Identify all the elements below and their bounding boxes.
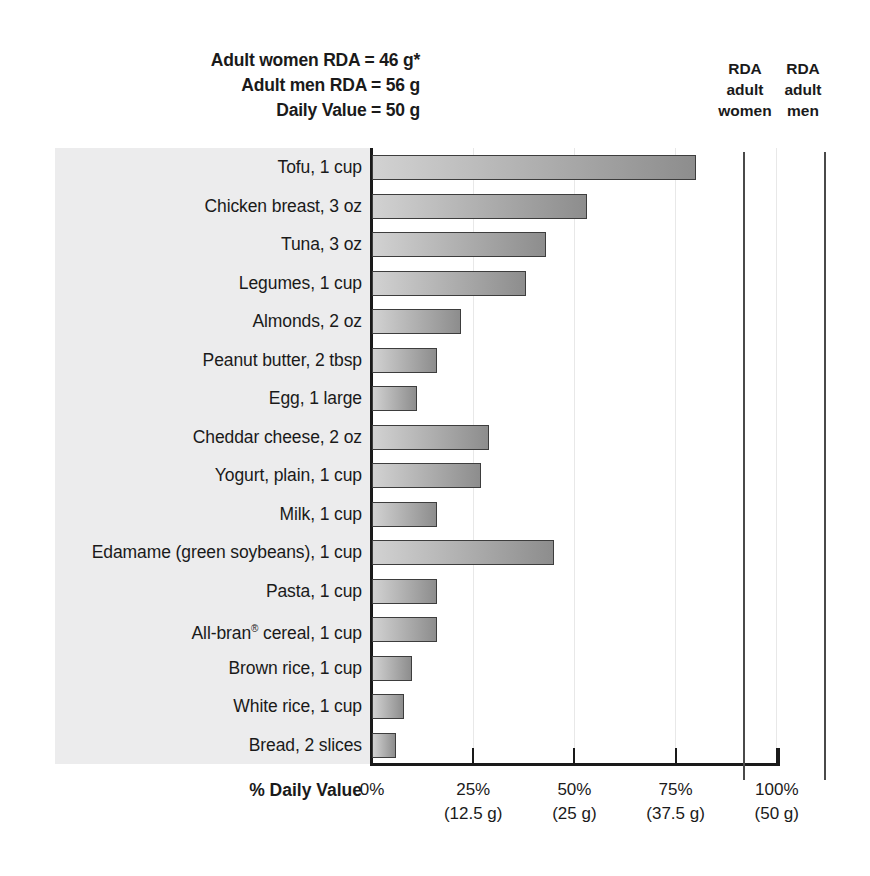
bar-category-label: All-bran® cereal, 1 cup — [40, 610, 362, 649]
table-row: Legumes, 1 cup — [0, 264, 870, 303]
x-tick-label: 25%(12.5 g) — [418, 778, 528, 826]
bar — [372, 348, 437, 373]
x-tick-label: 100%(50 g) — [722, 778, 832, 826]
table-row: Egg, 1 large — [0, 379, 870, 418]
table-row: White rice, 1 cup — [0, 687, 870, 726]
bar — [372, 617, 437, 642]
bar — [372, 733, 396, 758]
table-row: Peanut butter, 2 tbsp — [0, 341, 870, 380]
bar — [372, 463, 481, 488]
ref-caption-line: RDA — [760, 58, 846, 79]
bar-category-label: Milk, 1 cup — [40, 495, 362, 534]
x-tick-label: 0% — [317, 778, 427, 802]
bar-category-label: Bread, 2 slices — [40, 726, 362, 765]
x-tick-grams: (50 g) — [722, 802, 832, 826]
bar-category-label: Legumes, 1 cup — [40, 264, 362, 303]
x-tick-grams: (25 g) — [519, 802, 629, 826]
table-row: Brown rice, 1 cup — [0, 649, 870, 688]
rda-note-line: Adult men RDA = 56 g — [60, 73, 420, 98]
ref-caption-rda-adult-men: RDAadultmen — [760, 58, 846, 121]
bar — [372, 386, 417, 411]
bar — [372, 425, 489, 450]
rda-note-line: Daily Value = 50 g — [60, 98, 420, 123]
bar-category-label: Almonds, 2 oz — [40, 302, 362, 341]
bar — [372, 155, 696, 180]
x-tick-percent: 100% — [722, 778, 832, 802]
bar-category-label: Tuna, 3 oz — [40, 225, 362, 264]
table-row: Cheddar cheese, 2 oz — [0, 418, 870, 457]
table-row: Tofu, 1 cup — [0, 148, 870, 187]
rda-note: Adult women RDA = 46 g*Adult men RDA = 5… — [60, 48, 420, 123]
bar-category-label: Chicken breast, 3 oz — [40, 187, 362, 226]
bar-category-label: White rice, 1 cup — [40, 687, 362, 726]
table-row: Yogurt, plain, 1 cup — [0, 456, 870, 495]
rda-note-line: Adult women RDA = 46 g* — [60, 48, 420, 73]
table-row: All-bran® cereal, 1 cup — [0, 610, 870, 649]
ref-caption-line: adult — [760, 79, 846, 100]
table-row: Tuna, 3 oz — [0, 225, 870, 264]
bar-category-label: Edamame (green soybeans), 1 cup — [40, 533, 362, 572]
bar-category-label: Egg, 1 large — [40, 379, 362, 418]
x-tick-label: 50%(25 g) — [519, 778, 629, 826]
table-row: Milk, 1 cup — [0, 495, 870, 534]
bar-category-label: Tofu, 1 cup — [40, 148, 362, 187]
ref-caption-line: men — [760, 100, 846, 121]
bar-category-label: Pasta, 1 cup — [40, 572, 362, 611]
x-tick-percent: 75% — [621, 778, 731, 802]
bar — [372, 502, 437, 527]
table-row: Almonds, 2 oz — [0, 302, 870, 341]
table-row: Chicken breast, 3 oz — [0, 187, 870, 226]
bar — [372, 579, 437, 604]
x-tick-label: 75%(37.5 g) — [621, 778, 731, 826]
bar — [372, 194, 587, 219]
bar — [372, 271, 526, 296]
x-tick-percent: 50% — [519, 778, 629, 802]
table-row: Bread, 2 slices — [0, 726, 870, 765]
table-row: Edamame (green soybeans), 1 cup — [0, 533, 870, 572]
bar — [372, 232, 546, 257]
bar — [372, 694, 404, 719]
protein-content-bar-chart: Adult women RDA = 46 g*Adult men RDA = 5… — [0, 0, 870, 876]
x-tick-percent: 0% — [317, 778, 427, 802]
bar-category-label: Yogurt, plain, 1 cup — [40, 456, 362, 495]
x-tick-percent: 25% — [418, 778, 528, 802]
bar-category-label: Peanut butter, 2 tbsp — [40, 341, 362, 380]
x-tick-grams: (12.5 g) — [418, 802, 528, 826]
table-row: Pasta, 1 cup — [0, 572, 870, 611]
bar-category-label: Brown rice, 1 cup — [40, 649, 362, 688]
bar — [372, 309, 461, 334]
bar-category-label: Cheddar cheese, 2 oz — [40, 418, 362, 457]
x-tick-grams: (37.5 g) — [621, 802, 731, 826]
bar — [372, 540, 554, 565]
bar — [372, 656, 412, 681]
